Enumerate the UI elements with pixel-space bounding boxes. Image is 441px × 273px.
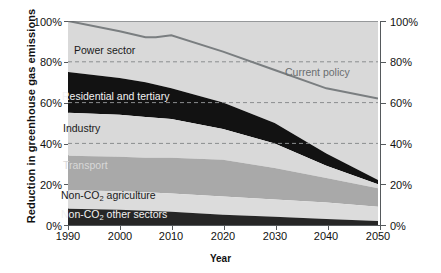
tickmark-right-0	[381, 225, 386, 226]
tickmark-x-2010	[172, 226, 173, 230]
tickmark-right-80	[381, 62, 386, 63]
y-tick-right-80: 80%	[390, 57, 412, 68]
y-tick-left-60: 60%	[40, 98, 62, 109]
x-tick-2010: 2010	[159, 231, 183, 242]
y-tick-left-20: 20%	[40, 180, 62, 191]
series-label-non-co2-agriculture: Non-CO2 agriculture	[61, 190, 156, 201]
tickmark-x-2050	[380, 226, 381, 230]
series-label-industry: Industry	[63, 123, 100, 134]
tickmark-x-2040	[328, 226, 329, 230]
x-tick-2000: 2000	[108, 231, 132, 242]
non-co2-other-sectors-text: Non-CO2 other sectors	[61, 208, 167, 220]
tickmark-x-2030	[276, 226, 277, 230]
x-tick-2050: 2050	[366, 231, 390, 242]
y-tick-right-40: 40%	[390, 139, 412, 150]
y-tick-right-20: 20%	[390, 180, 412, 191]
series-label-non-co2-other-sectors: Non-CO2 other sectors	[61, 209, 167, 220]
tickmark-x-1990	[68, 226, 69, 230]
x-tick-1990: 1990	[56, 231, 80, 242]
chart-figure: Reduction in greenhouse gas emissions Ye…	[0, 0, 441, 273]
tickmark-right-100	[381, 21, 386, 22]
x-tick-2040: 2040	[314, 231, 338, 242]
x-axis-title: Year	[0, 253, 441, 264]
right-axis-spine	[380, 21, 381, 226]
x-axis-ticks: 1990 2000 2010 2020 2030 2040 2050	[0, 231, 441, 251]
series-label-power-sector: Power sector	[74, 45, 135, 56]
y-tick-right-100: 100%	[390, 17, 418, 28]
y-tick-left-80: 80%	[40, 57, 62, 68]
non-co2-agriculture-text: Non-CO2 agriculture	[61, 189, 156, 201]
y-tick-right-60: 60%	[390, 98, 412, 109]
tickmark-x-2020	[224, 226, 225, 230]
series-label-transport: Transport	[63, 160, 108, 171]
tickmark-right-20	[381, 184, 386, 185]
series-label-residential-and-tertiary: Residential and tertiary	[62, 91, 169, 102]
x-tick-2020: 2020	[211, 231, 235, 242]
x-tick-2030: 2030	[263, 231, 287, 242]
y-tick-left-40: 40%	[40, 139, 62, 150]
tickmark-right-60	[381, 103, 386, 104]
tickmark-right-40	[381, 144, 386, 145]
y-tick-left-100: 100%	[34, 17, 62, 28]
annotation-current-policy: Current policy	[285, 67, 350, 78]
tickmark-x-2000	[120, 226, 121, 230]
